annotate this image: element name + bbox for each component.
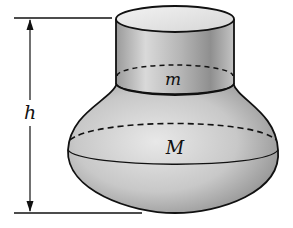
vessel-diagram: h M m [0,0,293,228]
bulb-mass-M: M [68,83,278,213]
height-label: h [24,101,36,123]
cylinder-mass-m: m [116,6,234,95]
cylinder-top-ellipse [116,6,234,32]
small-mass-label: m [165,69,181,89]
arrowhead-up-icon [27,19,34,30]
arrowhead-down-icon [27,201,34,212]
large-mass-label: M [165,137,185,158]
